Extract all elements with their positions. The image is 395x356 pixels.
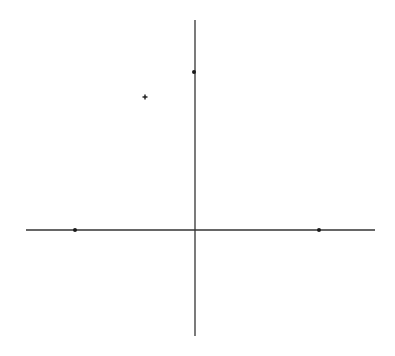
left-x-axis-point	[73, 228, 77, 232]
coordinate-plane	[0, 0, 395, 356]
points-group	[73, 70, 321, 232]
right-x-axis-point	[317, 228, 321, 232]
plus-marker	[143, 95, 148, 100]
upper-y-axis-point	[192, 70, 196, 74]
